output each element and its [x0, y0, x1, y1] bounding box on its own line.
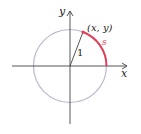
arc-label: s: [102, 37, 107, 47]
unit-circle-diagram: y x (x, y) 1 s: [0, 0, 141, 134]
point-label: (x, y): [87, 22, 113, 33]
y-axis-label: y: [58, 5, 66, 18]
radius-label: 1: [77, 47, 83, 58]
x-axis-label: x: [121, 67, 128, 80]
point-xy: [81, 30, 84, 33]
